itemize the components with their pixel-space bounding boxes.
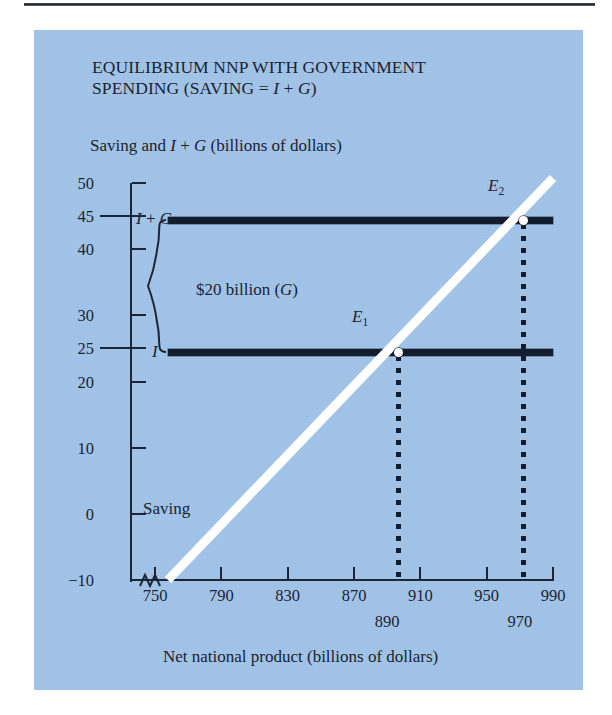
brace-label-g-italic: G <box>280 280 292 299</box>
equilibrium-label-e1: E1 <box>352 307 368 328</box>
y-tick-label-30: 30 <box>52 306 94 326</box>
brace-label-post: ) <box>292 280 298 299</box>
saving-schedule-line <box>120 160 590 600</box>
dropline-970 <box>521 224 526 580</box>
x-callout-label-890: 890 <box>359 612 415 632</box>
y-tick-label-50: 50 <box>52 174 94 194</box>
dropline-890 <box>396 356 401 580</box>
y-tick-label-neg10: −10 <box>52 571 94 591</box>
plot-area: 504540302520100−10 750790830870910950990… <box>0 0 612 715</box>
x-axis-title: Net national product (billions of dollar… <box>163 648 438 665</box>
brace-g-gap <box>146 218 176 354</box>
e2-letter: E <box>488 176 498 195</box>
e1-letter: E <box>352 307 362 326</box>
y-tick-label-45: 45 <box>52 207 94 227</box>
equilibrium-label-e2: E2 <box>488 176 504 197</box>
x-callout-label-970: 970 <box>492 612 548 632</box>
y-tick-label-10: 10 <box>52 439 94 459</box>
brace-label-pre: $20 billion ( <box>196 280 280 299</box>
brace-label-g: $20 billion (G) <box>196 281 298 298</box>
y-tick-label-20: 20 <box>52 373 94 393</box>
equilibrium-point-e1 <box>394 348 403 357</box>
e2-subscript: 2 <box>498 185 504 197</box>
y-tick-label-0: 0 <box>52 505 94 525</box>
series-label-saving: Saving <box>143 500 190 517</box>
y-tick-label-40: 40 <box>52 240 94 260</box>
e1-subscript: 1 <box>362 316 368 328</box>
equilibrium-point-e2 <box>519 216 528 225</box>
y-tick-label-25: 25 <box>52 339 94 359</box>
